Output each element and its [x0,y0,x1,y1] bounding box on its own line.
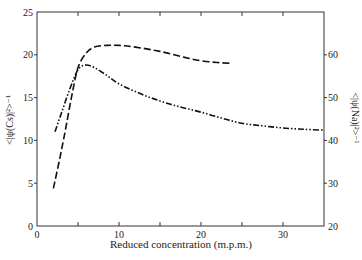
right-y-tick-label: 20 [328,221,338,232]
chart-figure: 0102030 0510152025 2030405060 Reduced co… [0,0,362,260]
plot-frame [37,12,324,226]
right-y-tick-label: 40 [328,135,338,146]
left-y-tick-label: 5 [28,178,33,189]
right-y-tick-label: 60 [328,49,338,60]
right-y-tick-label: 50 [328,92,338,103]
series-group [53,45,324,188]
na-series-line [55,65,324,132]
x-axis-ticks: 0102030 [35,12,289,240]
left-y-tick-label: 25 [23,7,33,18]
cs-series-line [53,45,231,188]
right-y-axis-ticks: 2030405060 [324,49,338,231]
left-y-tick-label: 20 [23,49,33,60]
x-axis-label: Reduced concentration (m.p.m.) [110,238,252,251]
left-y-tick-label: 10 [23,135,33,146]
x-tick-label: 30 [278,229,288,240]
x-tick-label: 0 [35,229,40,240]
right-y-tick-label: 30 [328,178,338,189]
left-y-axis-ticks: 0510152025 [23,7,37,232]
left-y-tick-label: 15 [23,92,33,103]
right-y-axis-label: <|ψ(Na)|²>⁻¹ [349,92,361,143]
left-y-axis-label: <|ψ(Cs)|²>⁻¹ [4,95,16,145]
left-y-tick-label: 0 [28,221,33,232]
